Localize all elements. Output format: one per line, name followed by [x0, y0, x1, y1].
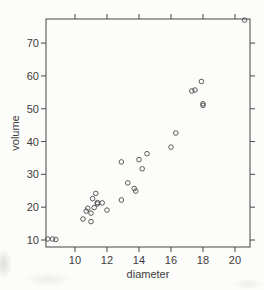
data-point — [54, 237, 59, 242]
data-point — [145, 151, 150, 156]
x-tick-label: 18 — [197, 254, 209, 266]
scatter-chart: 10121416182010203040506070diametervolume — [0, 0, 264, 290]
y-tick-label: 60 — [27, 70, 39, 82]
x-tick-label: 12 — [101, 254, 113, 266]
y-tick-label: 30 — [27, 168, 39, 180]
y-tick-label: 70 — [27, 37, 39, 49]
x-tick-label: 20 — [229, 254, 241, 266]
data-point — [81, 217, 86, 222]
plot-border — [46, 19, 250, 247]
data-point — [90, 196, 95, 201]
data-point — [100, 201, 105, 206]
data-point — [169, 145, 174, 150]
data-point — [105, 208, 110, 213]
data-point — [174, 131, 179, 136]
y-axis-label: volume — [9, 115, 21, 150]
data-point — [119, 198, 124, 203]
x-tick-label: 10 — [69, 254, 81, 266]
data-point — [140, 167, 145, 172]
y-tick-label: 10 — [27, 234, 39, 246]
data-point — [199, 79, 204, 84]
x-axis-label: diameter — [127, 268, 170, 280]
x-tick-label: 14 — [133, 254, 145, 266]
scatter-figure: 10121416182010203040506070diametervolume — [0, 0, 264, 290]
y-tick-label: 50 — [27, 103, 39, 115]
data-point — [89, 211, 94, 216]
data-point — [94, 191, 99, 196]
x-tick-label: 16 — [165, 254, 177, 266]
data-point — [89, 219, 94, 224]
y-tick-label: 40 — [27, 136, 39, 148]
data-point — [137, 157, 142, 162]
data-point — [126, 181, 131, 186]
data-point — [119, 160, 124, 165]
y-tick-label: 20 — [27, 201, 39, 213]
